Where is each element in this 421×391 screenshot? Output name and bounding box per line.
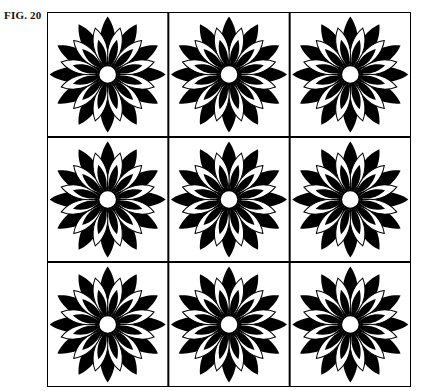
flower-tile xyxy=(292,142,408,258)
flower-tile xyxy=(171,142,287,258)
flower-tile xyxy=(171,17,287,133)
flower-tile-grid xyxy=(47,12,411,387)
figure-label: FIG. 20 xyxy=(4,9,41,21)
flower-tile xyxy=(292,17,408,133)
flower-tile xyxy=(292,267,408,383)
flower-tile xyxy=(171,267,287,383)
flower-tile xyxy=(50,267,166,383)
flower-tile xyxy=(50,17,166,133)
flower-tile xyxy=(50,142,166,258)
